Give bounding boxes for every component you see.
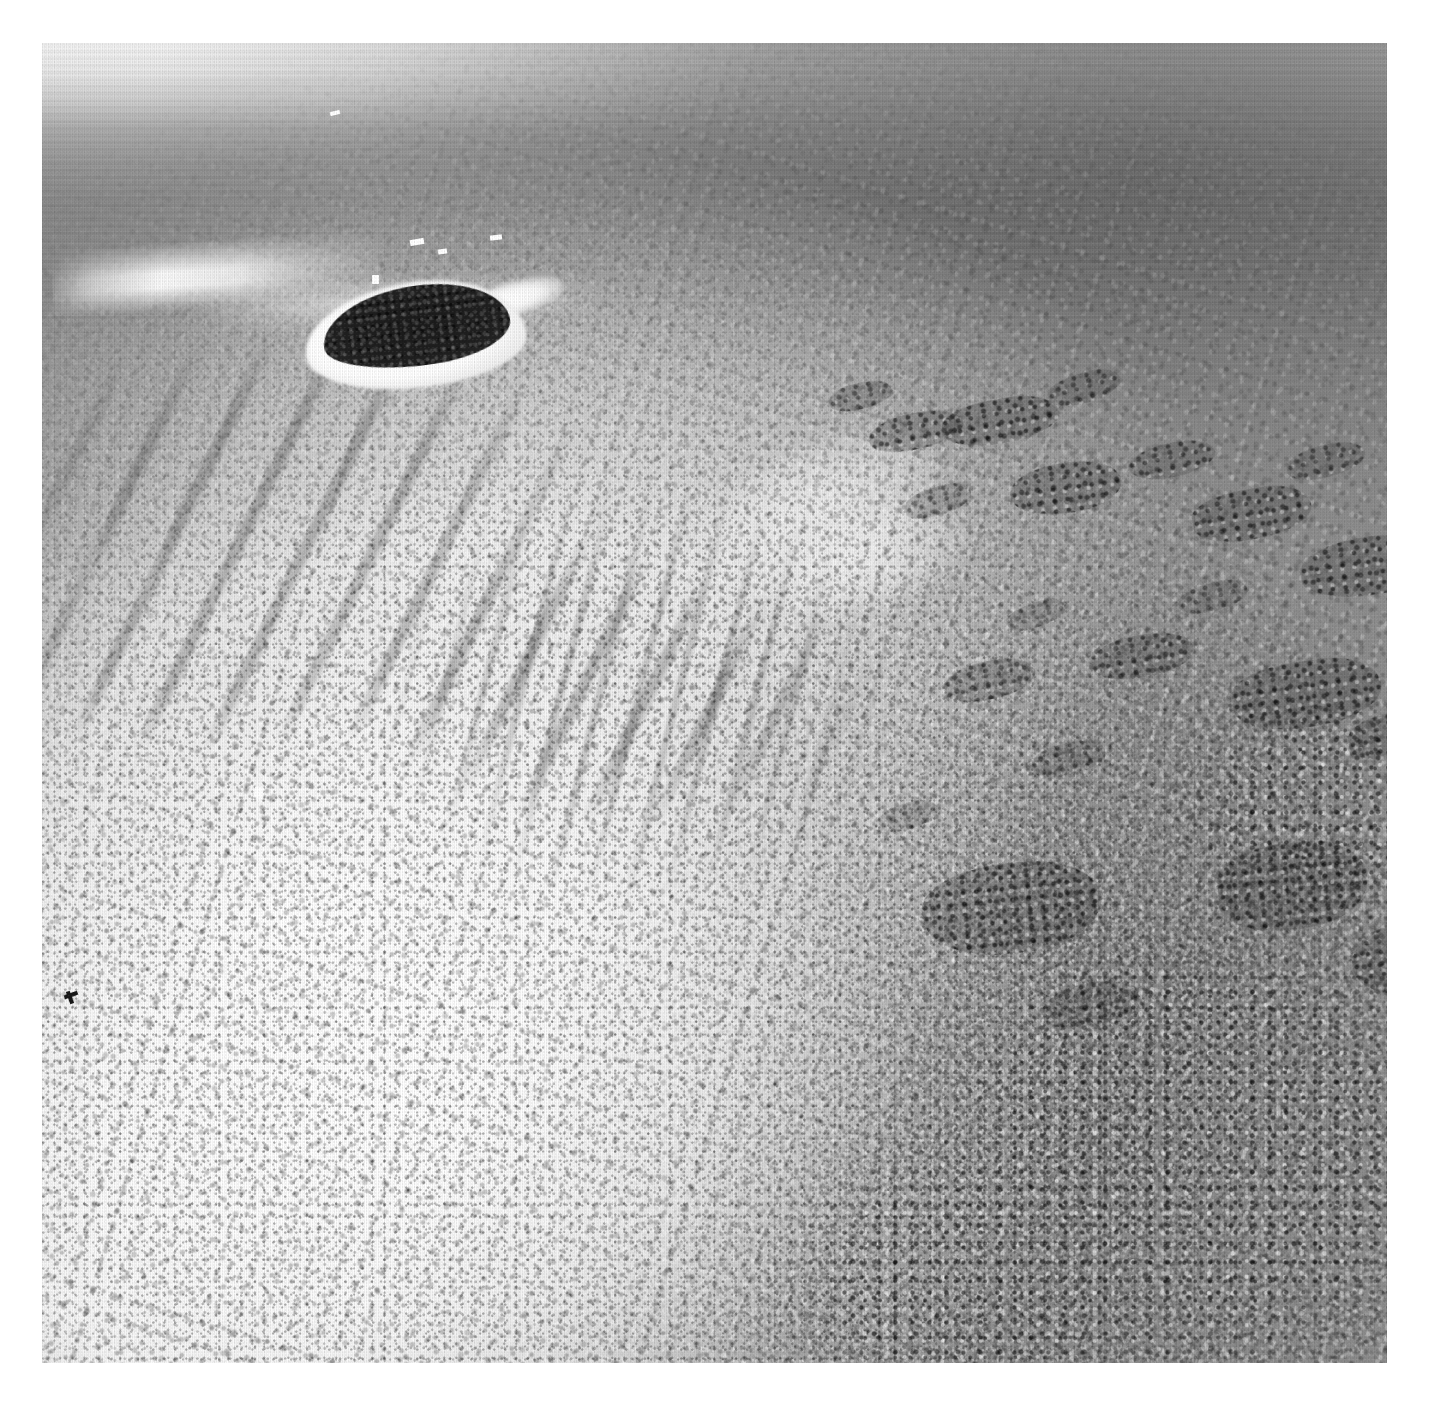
- patch-reef: [1027, 734, 1108, 783]
- patch-reef: [1038, 974, 1141, 1037]
- photo-page: [0, 0, 1431, 1407]
- patch-reef: [941, 652, 1039, 708]
- patch-reef: [1189, 479, 1316, 549]
- patch-reef: [826, 376, 894, 417]
- patch-reef: [1044, 363, 1123, 412]
- light-speck: [253, 786, 263, 798]
- patch-reef: [1348, 915, 1387, 1001]
- sand-cay: [290, 248, 550, 398]
- light-speck: [372, 275, 379, 284]
- aerial-photograph: [42, 43, 1387, 1363]
- patch-reef: [875, 794, 940, 837]
- patch-reef: [1175, 574, 1250, 620]
- patch-reef: [1087, 626, 1197, 685]
- patch-reef: [939, 389, 1063, 453]
- patch-reef: [918, 854, 1106, 962]
- light-speck: [490, 234, 502, 240]
- patch-reef: [1214, 835, 1372, 936]
- light-speck: [410, 238, 425, 246]
- patch-reef: [1007, 455, 1125, 520]
- patch-reef: [1125, 434, 1218, 486]
- patch-reef: [1283, 436, 1368, 486]
- light-speck: [330, 110, 341, 116]
- patch-reef: [1297, 528, 1387, 604]
- patch-reef: [1004, 593, 1069, 636]
